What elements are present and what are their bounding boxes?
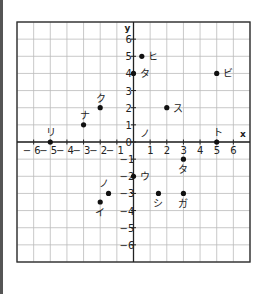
data-point (48, 139, 53, 144)
point-label: リ (46, 127, 56, 138)
y-tick-label: 2 (126, 103, 132, 114)
data-point (214, 71, 219, 76)
data-point (181, 157, 186, 162)
y-axis-label: y (125, 23, 131, 33)
data-point (81, 122, 86, 127)
point-label: ク (96, 93, 106, 104)
x-tick-label: 5 (214, 145, 220, 156)
point-label: ガ (178, 198, 188, 209)
x-axis-label: x (240, 129, 246, 139)
point-label: ス (173, 103, 183, 114)
x-tick-label: − 4 (56, 145, 74, 156)
y-tick-label: −1 (120, 154, 135, 165)
data-point (131, 71, 136, 76)
data-point (98, 105, 103, 110)
point-label: ト (213, 127, 223, 138)
data-point (214, 139, 219, 144)
coordinate-plane: yx− 6− 5− 4− 3− 2− 1123456−6−5−4−3−2−101… (0, 0, 266, 294)
point-label: タ (140, 68, 150, 79)
point-label: ウ (140, 171, 150, 182)
x-tick-label: 6 (230, 145, 236, 156)
y-tick-label: 1 (126, 120, 132, 131)
data-point (139, 54, 144, 59)
y-tick-label: 4 (126, 68, 132, 79)
data-point (181, 191, 186, 196)
point-label: ナ (80, 110, 90, 121)
free-label: ノ (140, 128, 150, 139)
data-point (156, 191, 161, 196)
point-label: ヒ (148, 51, 158, 62)
x-tick-label: 2 (164, 145, 170, 156)
data-point (164, 105, 169, 110)
x-tick-label: 4 (197, 145, 203, 156)
y-tick-label: −5 (120, 223, 135, 234)
data-point (98, 199, 103, 204)
point-label: ノ (99, 178, 109, 189)
y-tick-label: −3 (120, 188, 135, 199)
y-tick-label: 0 (126, 137, 132, 148)
point-label: ビ (223, 68, 233, 79)
x-tick-label: − 2 (89, 145, 107, 156)
y-tick-label: −4 (120, 206, 135, 217)
x-tick-label: − 5 (39, 145, 57, 156)
y-tick-label: 5 (126, 51, 132, 62)
point-label: イ (95, 207, 105, 218)
x-tick-label: − 3 (73, 145, 91, 156)
y-tick-label: 3 (126, 86, 132, 97)
data-point (106, 191, 111, 196)
data-point (131, 174, 136, 179)
x-tick-label: 3 (180, 145, 186, 156)
point-label: タ (178, 164, 188, 175)
x-tick-label: − 6 (23, 145, 41, 156)
y-tick-label: 6 (126, 34, 132, 45)
y-tick-label: −6 (120, 240, 135, 251)
point-label: シ (153, 198, 163, 209)
x-tick-label: 1 (147, 145, 153, 156)
